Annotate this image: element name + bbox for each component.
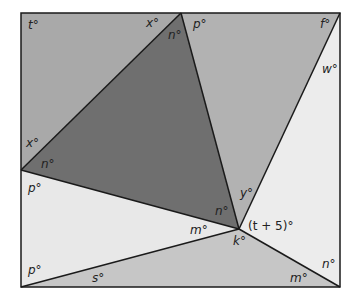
label-n-left: n° bbox=[41, 157, 55, 171]
label-t-plus-5: (t + 5)° bbox=[248, 219, 293, 233]
label-m-bottom: m° bbox=[290, 271, 308, 285]
label-k: k° bbox=[233, 234, 246, 248]
label-p-left-upper: p° bbox=[27, 181, 42, 195]
geometry-diagram: t° x° n° p° f° w° x° n° p° y° n° m° (t +… bbox=[0, 0, 357, 305]
label-s: s° bbox=[92, 271, 104, 285]
label-t: t° bbox=[28, 18, 39, 32]
label-x-left: x° bbox=[25, 136, 39, 150]
label-x-top: x° bbox=[145, 16, 159, 30]
label-p-top: p° bbox=[192, 17, 207, 31]
label-m-center: m° bbox=[190, 223, 208, 237]
label-f: f° bbox=[320, 17, 330, 31]
label-n-top: n° bbox=[168, 28, 182, 42]
label-n-center: n° bbox=[215, 204, 229, 218]
label-y: y° bbox=[239, 186, 253, 200]
label-w: w° bbox=[322, 62, 338, 76]
label-n-bottom: n° bbox=[322, 257, 336, 271]
label-p-left-lower: p° bbox=[27, 263, 42, 277]
